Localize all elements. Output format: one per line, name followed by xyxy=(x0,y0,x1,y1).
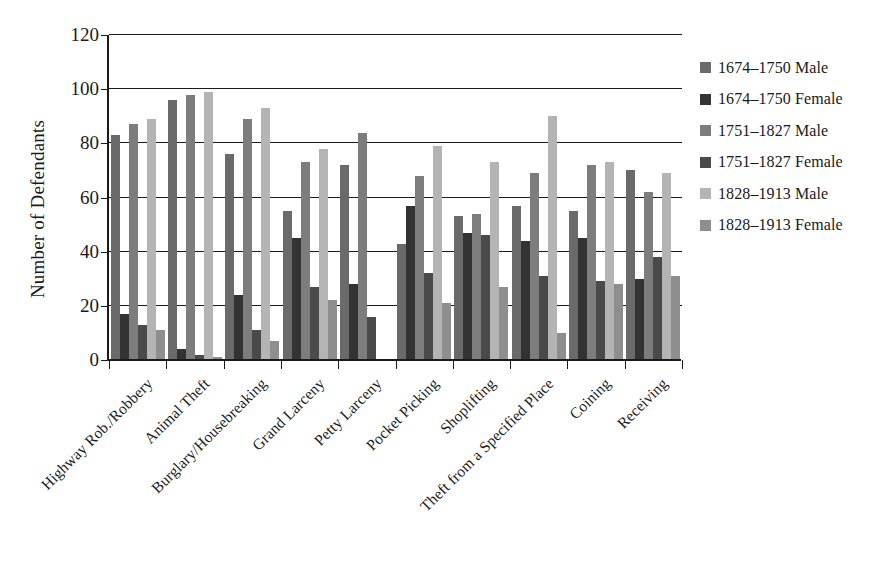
bar xyxy=(261,108,270,360)
legend-item: 1674–1750 Male xyxy=(700,52,869,84)
bar-group xyxy=(225,35,279,360)
bar xyxy=(406,206,415,360)
legend-label: 1674–1750 Male xyxy=(718,59,828,77)
legend-item: 1751–1827 Male xyxy=(700,115,869,147)
bar xyxy=(168,100,177,360)
x-tick-mark xyxy=(510,360,511,369)
bar xyxy=(635,279,644,360)
x-tick-mark xyxy=(166,360,167,369)
legend-item: 1751–1827 Female xyxy=(700,147,869,179)
bar xyxy=(499,287,508,360)
y-tick-mark xyxy=(101,198,109,199)
legend-label: 1674–1750 Female xyxy=(718,90,843,108)
legend-item: 1828–1913 Female xyxy=(700,210,869,242)
bar xyxy=(424,273,433,360)
legend-swatch-icon xyxy=(700,94,711,105)
bar xyxy=(587,165,596,360)
bar xyxy=(340,165,349,360)
bar xyxy=(292,238,301,360)
bar xyxy=(310,287,319,360)
y-tick-label: 40 xyxy=(80,241,99,263)
bar xyxy=(129,124,138,360)
bar xyxy=(662,173,671,360)
bar xyxy=(397,244,406,360)
bar-chart-figure: Number of Defendants 020406080100120 Hig… xyxy=(0,0,869,581)
y-tick-mark xyxy=(101,306,109,307)
plot-area: 020406080100120 xyxy=(107,35,680,360)
bar xyxy=(614,284,623,360)
bar xyxy=(111,135,120,360)
legend-swatch-icon xyxy=(700,62,711,73)
x-axis-line xyxy=(107,359,681,361)
bar xyxy=(539,276,548,360)
y-tick-mark xyxy=(101,89,109,90)
legend-label: 1828–1913 Female xyxy=(718,216,843,234)
bar xyxy=(605,162,614,360)
bar xyxy=(644,192,653,360)
bar xyxy=(319,149,328,360)
bar xyxy=(472,214,481,360)
bar xyxy=(156,330,165,360)
bar xyxy=(234,295,243,360)
bar xyxy=(301,162,310,360)
y-tick-mark xyxy=(101,143,109,144)
bar-group xyxy=(512,35,566,360)
bar xyxy=(671,276,680,360)
bar xyxy=(204,92,213,360)
bar xyxy=(463,233,472,360)
legend-label: 1751–1827 Female xyxy=(718,153,843,171)
bar xyxy=(225,154,234,360)
y-tick-label: 120 xyxy=(71,24,100,46)
bar-group xyxy=(111,35,165,360)
bar xyxy=(442,303,451,360)
bar xyxy=(490,162,499,360)
bar xyxy=(512,206,521,360)
bar xyxy=(186,95,195,360)
bar xyxy=(147,119,156,360)
bar xyxy=(569,211,578,360)
bar xyxy=(454,216,463,360)
bar xyxy=(596,281,605,360)
x-tick-mark xyxy=(453,360,454,369)
bar xyxy=(481,235,490,360)
x-tick-mark xyxy=(224,360,225,369)
bar xyxy=(530,173,539,360)
bar xyxy=(328,300,337,360)
bar xyxy=(283,211,292,360)
bar-group xyxy=(283,35,337,360)
legend-swatch-icon xyxy=(700,220,711,231)
bar-group xyxy=(626,35,680,360)
bar-group xyxy=(168,35,222,360)
bar xyxy=(243,119,252,360)
y-tick-label: 80 xyxy=(80,132,99,154)
chart-legend: 1674–1750 Male1674–1750 Female1751–1827 … xyxy=(700,52,869,241)
legend-swatch-icon xyxy=(700,125,711,136)
bar-group xyxy=(397,35,451,360)
bar-group xyxy=(569,35,623,360)
bar xyxy=(415,176,424,360)
bar xyxy=(252,330,261,360)
legend-label: 1828–1913 Male xyxy=(718,185,828,203)
x-tick-mark xyxy=(567,360,568,369)
y-tick-label: 100 xyxy=(71,78,100,100)
bar xyxy=(120,314,129,360)
bar xyxy=(349,284,358,360)
legend-item: 1828–1913 Male xyxy=(700,178,869,210)
legend-swatch-icon xyxy=(700,157,711,168)
legend-swatch-icon xyxy=(700,188,711,199)
y-tick-label: 20 xyxy=(80,295,99,317)
bar-group xyxy=(340,35,394,360)
x-tick-mark xyxy=(281,360,282,369)
y-tick-mark xyxy=(101,252,109,253)
y-tick-label: 60 xyxy=(80,187,99,209)
y-axis-title: Number of Defendants xyxy=(27,109,49,309)
bar xyxy=(138,325,147,360)
bar xyxy=(557,333,566,360)
y-tick-mark xyxy=(101,35,109,36)
legend-item: 1674–1750 Female xyxy=(700,84,869,116)
bar xyxy=(367,317,376,360)
bar xyxy=(548,116,557,360)
x-tick-mark xyxy=(682,360,683,369)
y-tick-label: 0 xyxy=(90,349,100,371)
bar xyxy=(578,238,587,360)
